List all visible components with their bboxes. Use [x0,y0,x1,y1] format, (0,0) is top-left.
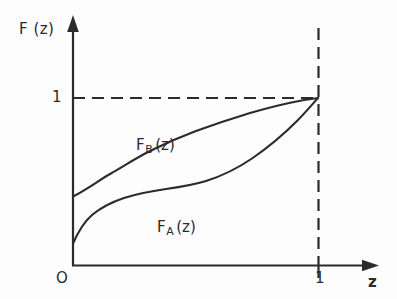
curve-label-fb-subscript: B [145,143,155,156]
origin-label: O [56,269,68,287]
figure-container: F (z) z O 1 1 FB(z) FA(z) [0,0,397,299]
curve-label-fa-prefix: F [157,218,166,236]
x-axis [72,260,379,271]
curve-label-fb-suffix: (z) [154,136,175,154]
y-axis-arrowhead [67,15,79,32]
y-tick-label-one: 1 [52,88,62,106]
curve-label-fa-suffix: (z) [175,218,196,236]
curve-fb [73,98,318,197]
curve-label-fb: FB(z) [117,118,175,174]
x-axis-arrowhead [362,260,379,271]
curve-label-fa-subscript: A [166,225,176,238]
y-axis [67,15,79,266]
x-tick-label-one: 1 [315,269,325,287]
curve-label-fa: FA(z) [138,200,196,256]
curve-label-fb-prefix: F [136,136,145,154]
x-axis-label: z [368,273,377,291]
y-axis-label: F (z) [19,20,54,38]
figure-canvas [0,0,397,299]
